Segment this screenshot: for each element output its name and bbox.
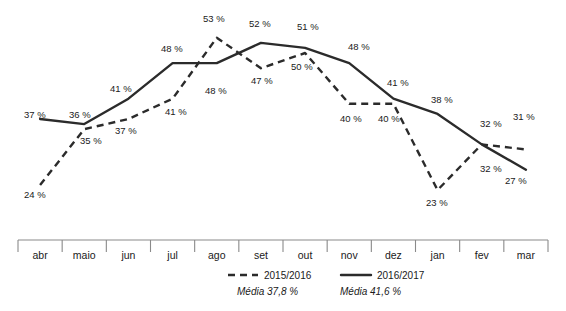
chart-legend: 2015/2016 Média 37,8 % 2016/2017 Média 4…: [228, 270, 425, 297]
data-point-label: 48 %: [205, 85, 227, 96]
data-point-label: 41 %: [110, 83, 132, 94]
data-point-label: 40 %: [340, 113, 362, 124]
data-point-label: 53 %: [203, 13, 225, 24]
data-point-label: 37 %: [115, 125, 137, 136]
legend-label-2016-2017: 2016/2017: [377, 270, 425, 281]
x-axis-month-label-jul: jul: [166, 249, 178, 261]
data-point-label: 40 %: [378, 113, 400, 124]
data-point-label: 50 %: [291, 61, 313, 72]
chart-canvas: 37 %36 %41 %48 %52 %51 %48 %41 %38 %32 %…: [0, 0, 566, 311]
x-axis-month-label-out: out: [298, 249, 313, 261]
series-layer: [40, 38, 526, 190]
legend-label-2015-2016: 2015/2016: [264, 270, 312, 281]
data-point-label: 52 %: [249, 18, 271, 29]
x-axis-month-label-maio: maio: [73, 249, 96, 261]
series-line-2015-2016: [40, 38, 526, 190]
data-point-label: 41 %: [165, 106, 187, 117]
data-point-label: 23 %: [426, 197, 448, 208]
data-point-label: 32 %: [480, 118, 502, 129]
x-axis-month-label-abr: abr: [32, 249, 48, 261]
data-point-label: 35 %: [80, 135, 102, 146]
x-axis: abrmaiojunjulagosetoutnovdezjanfevmar: [18, 240, 548, 261]
x-axis-month-label-jan: jan: [430, 249, 445, 261]
x-axis-month-label-dez: dez: [385, 249, 402, 261]
data-point-label: 48 %: [161, 43, 183, 54]
x-axis-month-label-mar: mar: [517, 249, 536, 261]
data-point-label: 31 %: [513, 111, 535, 122]
data-point-label: 47 %: [251, 75, 273, 86]
data-point-label: 38 %: [431, 94, 453, 105]
x-axis-month-label-jun: jun: [120, 249, 135, 261]
value-labels-layer: 37 %36 %41 %48 %52 %51 %48 %41 %38 %32 %…: [24, 13, 535, 208]
data-point-label: 24 %: [24, 189, 46, 200]
data-point-label: 51 %: [297, 21, 319, 32]
x-axis-ticks: [18, 240, 548, 252]
x-axis-month-label-nov: nov: [341, 249, 359, 261]
legend-entry-2016-2017: 2016/2017 Média 41,6 %: [340, 270, 425, 297]
data-point-label: 41 %: [387, 77, 409, 88]
x-axis-month-label-set: set: [254, 249, 268, 261]
series-line-2016-2017: [40, 43, 526, 170]
data-point-label: 36 %: [69, 109, 91, 120]
legend-entry-2015-2016: 2015/2016 Média 37,8 %: [228, 270, 312, 297]
x-axis-month-label-ago: ago: [208, 249, 226, 261]
legend-average-2015-2016: Média 37,8 %: [237, 286, 298, 297]
legend-average-2016-2017: Média 41,6 %: [340, 286, 401, 297]
data-point-label: 32 %: [480, 163, 502, 174]
line-chart-figure: 37 %36 %41 %48 %52 %51 %48 %41 %38 %32 %…: [0, 0, 566, 311]
x-axis-month-label-fev: fev: [475, 249, 490, 261]
data-point-label: 48 %: [348, 41, 370, 52]
data-point-label: 37 %: [24, 109, 46, 120]
data-point-label: 27 %: [505, 175, 527, 186]
